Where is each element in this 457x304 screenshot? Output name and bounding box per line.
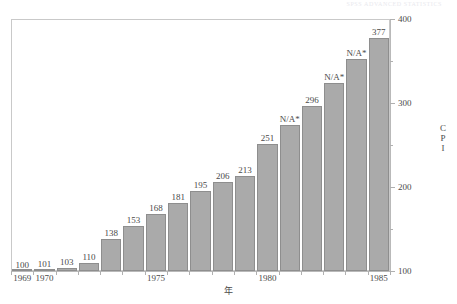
bar — [280, 125, 300, 271]
x-axis-title: 年 — [0, 286, 457, 296]
x-axis-tick — [167, 271, 168, 275]
x-axis-tick — [212, 271, 213, 275]
x-axis-tick — [234, 271, 235, 275]
x-axis-tick — [33, 271, 34, 275]
bar-slot: 181 — [167, 19, 189, 271]
y-axis-minor-tick — [390, 145, 393, 146]
x-axis-tick — [56, 271, 57, 275]
bar-slot: 138 — [100, 19, 122, 271]
y-axis-minor-tick — [390, 229, 393, 230]
x-axis-tick — [189, 271, 190, 275]
y-axis-title-char: I — [436, 143, 450, 153]
bar — [101, 239, 121, 271]
x-axis-tick-label: 1985 — [370, 273, 388, 284]
x-axis-tick — [256, 271, 257, 275]
x-axis-tick — [100, 271, 101, 275]
bar — [257, 144, 277, 271]
cropped-header-text: SPSS ADVANCED STATISTICS — [262, 0, 442, 8]
bar — [369, 38, 389, 271]
y-axis-tick-label: 400 — [398, 15, 412, 24]
x-axis-tick-label: 1969 — [13, 273, 31, 284]
bar-slot: 296 — [301, 19, 323, 271]
bar-slot: N/A* — [345, 19, 367, 271]
y-axis-major-tick — [390, 19, 395, 20]
bar-value-label: 377 — [358, 27, 400, 37]
bar — [346, 59, 366, 271]
bar — [302, 106, 322, 271]
y-axis-tick-label: 200 — [398, 183, 412, 192]
x-axis-tick-label: 1975 — [147, 273, 165, 284]
y-axis-minor-tick — [390, 61, 393, 62]
x-axis-tick-label: 1970 — [35, 273, 53, 284]
bar — [324, 83, 344, 271]
bar-slot: 153 — [122, 19, 144, 271]
bar-slot: 101 — [33, 19, 55, 271]
bar-slot: 168 — [145, 19, 167, 271]
bar — [213, 182, 233, 271]
bar-slot: 100 — [11, 19, 33, 271]
x-axis — [11, 271, 391, 272]
bar-slot: 377 — [368, 19, 390, 271]
bar-slot: 206 — [212, 19, 234, 271]
y-axis-title-char: P — [436, 133, 450, 143]
x-axis-tick — [345, 271, 346, 275]
bar — [123, 226, 143, 271]
x-axis-tick-label: 1980 — [258, 273, 276, 284]
x-axis-tick — [78, 271, 79, 275]
y-axis-major-tick — [390, 187, 395, 188]
bar — [190, 191, 210, 271]
x-axis-tick — [122, 271, 123, 275]
y-axis-title-char: C — [436, 123, 450, 133]
x-axis-tick — [11, 271, 12, 275]
x-axis-tick — [390, 271, 391, 275]
x-axis-tick — [368, 271, 369, 275]
y-axis-title: CPI — [436, 123, 450, 153]
bar — [79, 263, 99, 271]
bar-slot: N/A* — [279, 19, 301, 271]
bar-slot: 103 — [56, 19, 78, 271]
y-axis-tick-label: 300 — [398, 99, 412, 108]
bar-slot: 213 — [234, 19, 256, 271]
bar — [168, 203, 188, 271]
x-axis-tick — [323, 271, 324, 275]
bar-slot: 195 — [189, 19, 211, 271]
bar — [235, 176, 255, 271]
x-axis-tick — [145, 271, 146, 275]
x-axis-tick — [301, 271, 302, 275]
bars-layer: 100101103110138153168181195206213251N/A*… — [11, 19, 390, 271]
bar — [146, 214, 166, 271]
y-axis-major-tick — [390, 103, 395, 104]
x-axis-tick — [279, 271, 280, 275]
y-axis-tick-label: 100 — [398, 267, 412, 276]
bar-slot: 251 — [256, 19, 278, 271]
chart-figure: SPSS ADVANCED STATISTICS 100101103110138… — [0, 0, 457, 304]
